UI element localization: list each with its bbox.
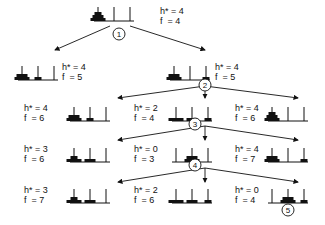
h-star-value: h* = 4 <box>235 103 259 113</box>
node-cost-label: h* = 4f = 4 <box>160 6 184 26</box>
h-star-value: h* = 4 <box>24 103 48 113</box>
svg-text:3: 3 <box>193 120 198 129</box>
hanoi-state-n4c <box>268 189 308 203</box>
h-star-value: h* = 3 <box>24 185 48 195</box>
svg-text:4: 4 <box>193 161 198 170</box>
step-marker-2: 2 <box>199 79 211 91</box>
f-value: f = 6 <box>24 154 48 164</box>
step-marker-1: 1 <box>113 28 125 40</box>
tree-edge-arrow <box>55 26 110 50</box>
svg-text:2: 2 <box>203 81 208 90</box>
f-value: f = 4 <box>160 16 184 26</box>
f-value: f = 3 <box>134 154 158 164</box>
node-cost-label: h* = 3f = 6 <box>24 144 48 164</box>
node-cost-label: h* = 2f = 4 <box>134 103 158 123</box>
f-value: f = 6 <box>134 195 158 205</box>
h-star-value: h* = 2 <box>134 185 158 195</box>
f-value: f = 6 <box>235 113 259 123</box>
node-cost-label: h* = 4f = 6 <box>24 103 48 123</box>
node-cost-label: h* = 4f = 5 <box>215 62 239 82</box>
h-star-value: h* = 4 <box>235 144 259 154</box>
node-cost-label: h* = 4f = 5 <box>62 62 86 82</box>
step-marker-3: 3 <box>189 118 201 130</box>
h-star-value: h* = 2 <box>134 103 158 113</box>
hanoi-state-n1a <box>15 66 59 80</box>
h-star-value: h* = 0 <box>235 185 259 195</box>
node-cost-label: h* = 0f = 4 <box>235 185 259 205</box>
hanoi-state-n2b <box>169 107 213 121</box>
h-star-value: h* = 4 <box>62 62 86 72</box>
h-star-value: h* = 3 <box>24 144 48 154</box>
f-value: f = 4 <box>134 113 158 123</box>
h-star-value: h* = 4 <box>160 6 184 16</box>
f-value: f = 5 <box>62 72 86 82</box>
search-tree-diagram: 12345 <box>0 0 325 225</box>
h-star-value: h* = 4 <box>215 62 239 72</box>
tree-edge-arrow <box>130 26 205 50</box>
f-value: f = 5 <box>215 72 239 82</box>
node-cost-label: h* = 4f = 6 <box>235 103 259 123</box>
f-value: f = 4 <box>235 195 259 205</box>
node-cost-label: h* = 2f = 6 <box>134 185 158 205</box>
step-marker-5: 5 <box>282 204 294 216</box>
hanoi-state-n3c <box>265 148 309 162</box>
tree-edge-arrow <box>205 86 298 98</box>
hanoi-state-n3a <box>67 148 111 162</box>
node-cost-label: h* = 3f = 7 <box>24 185 48 205</box>
svg-text:5: 5 <box>286 206 291 215</box>
f-value: f = 6 <box>24 113 48 123</box>
tree-edge-arrow <box>205 126 298 140</box>
hanoi-state-n4b <box>169 189 213 203</box>
h-star-value: h* = 0 <box>134 144 158 154</box>
hanoi-state-n1b <box>167 66 211 80</box>
hanoi-state-n2c <box>265 107 309 121</box>
f-value: f = 7 <box>235 154 259 164</box>
hanoi-state-root <box>91 7 135 21</box>
f-value: f = 7 <box>24 195 48 205</box>
tree-edge-arrow <box>205 168 298 182</box>
step-marker-4: 4 <box>189 159 201 171</box>
svg-text:1: 1 <box>117 30 122 39</box>
tree-edge-arrow <box>118 86 205 98</box>
node-cost-label: h* = 4f = 7 <box>235 144 259 164</box>
hanoi-state-n2a <box>67 107 111 121</box>
hanoi-state-n4a <box>67 189 111 203</box>
node-cost-label: h* = 0f = 3 <box>134 144 158 164</box>
